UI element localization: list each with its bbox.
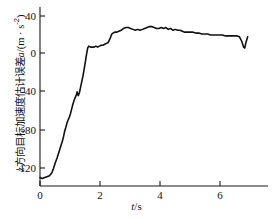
y-axis-label-text: 方向目标加速度估计误差: [14, 57, 26, 167]
line-chart-plot: 40 0 -40 -80 -120 0 2 4 6: [0, 0, 273, 219]
y-axis-label-prefix: z: [15, 167, 26, 171]
x-tick-marks: [40, 181, 220, 186]
x-axis-label-unit: /s: [134, 200, 141, 212]
data-series-line: [40, 27, 248, 179]
y-tick-marks: [40, 16, 45, 168]
y-axis-label-exponent: -2: [12, 18, 21, 25]
y-axis-label-unit: /(m · s: [15, 25, 26, 52]
y-axis-label: z方向目标加速度估计误差a/(m · s-2): [9, 0, 25, 188]
y-tick-label-0: 0: [31, 47, 37, 59]
x-axis-label: t/s: [0, 200, 273, 212]
y-axis-label-var: a: [15, 52, 26, 57]
y-tick-label-40: 40: [25, 10, 37, 22]
y-axis-label-unit-close: ): [15, 15, 26, 19]
chart-figure: 40 0 -40 -80 -120 0 2 4 6 t/s z方向目标加速度估计…: [0, 0, 273, 219]
